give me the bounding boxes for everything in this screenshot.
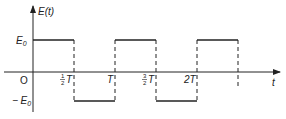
- diagram-canvas: E(t) t O E0 − E0 1 2 T T 3 2 T 2T: [0, 0, 286, 119]
- y-axis-label: E(t): [38, 6, 54, 17]
- x-axis-label: t: [272, 77, 276, 88]
- svg-text:2T: 2T: [183, 74, 197, 85]
- waveform: [33, 40, 238, 101]
- svg-text:T: T: [107, 74, 114, 85]
- transition-lines: [74, 40, 238, 101]
- svg-text:1: 1: [61, 73, 65, 79]
- tick-half-T: 1 2 T: [60, 73, 73, 86]
- square-wave-diagram: E(t) t O E0 − E0 1 2 T T 3 2 T 2T: [0, 0, 286, 119]
- origin-label: O: [20, 75, 28, 86]
- tick-2T: 2T: [183, 74, 197, 85]
- svg-text:3: 3: [143, 73, 147, 79]
- tick-3half-T: 3 2 T: [142, 73, 155, 86]
- level-low-label: − E0: [12, 95, 31, 107]
- tick-T: T: [107, 74, 114, 85]
- svg-text:T: T: [148, 74, 155, 85]
- svg-text:2: 2: [143, 80, 147, 86]
- level-high-label: E0: [16, 35, 27, 47]
- svg-text:T: T: [66, 74, 73, 85]
- svg-text:2: 2: [61, 80, 65, 86]
